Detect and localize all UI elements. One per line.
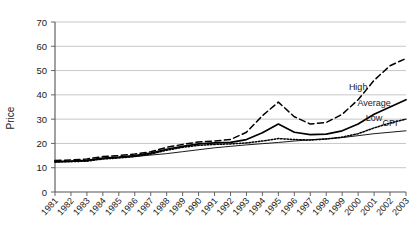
series-label-cpi: CPI [383, 118, 398, 128]
y-tick-label: 10 [36, 162, 47, 173]
series-label-average: Average [357, 98, 390, 108]
series-label-low: Low [366, 113, 383, 123]
y-tick-label: 30 [36, 114, 47, 125]
y-tick-label: 0 [42, 187, 47, 198]
y-tick-label: 50 [36, 65, 47, 76]
y-tick-label: 20 [36, 138, 47, 149]
chart-canvas: 010203040506070 198119821983198419851986… [0, 0, 420, 240]
y-tick-label: 40 [36, 89, 47, 100]
y-tick-label: 60 [36, 41, 47, 52]
y-tick-label: 70 [36, 17, 47, 28]
y-axis-title: Price [5, 106, 16, 129]
series-label-high: High [349, 82, 368, 92]
price-line-chart: 010203040506070 198119821983198419851986… [0, 0, 420, 240]
